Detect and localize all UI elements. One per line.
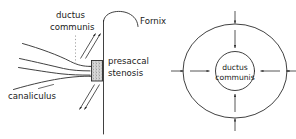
presaccal-stenosis-block: [92, 61, 103, 82]
canaliculus-leader: [39, 85, 54, 89]
label-presaccal-line1: presaccal: [108, 56, 149, 66]
diagram-svg: ductus communis Fornix presaccal stenosi…: [0, 0, 296, 139]
label-ductus-communis-line1: ductus: [56, 10, 85, 20]
figure-canvas: ductus communis Fornix presaccal stenosi…: [0, 0, 296, 139]
left-panel-group: ductus communis Fornix presaccal stenosi…: [8, 10, 166, 134]
fornix-arch: [104, 11, 139, 26]
label-ductus-communis-line2: communis: [50, 22, 95, 32]
label-lumen-ductus-line1: ductus: [222, 63, 248, 72]
right-panel-group: ductus communis: [171, 11, 296, 131]
lower-canaliculus-wall-bottom: [14, 76, 91, 89]
label-lumen-ductus-line2: communis: [215, 73, 254, 82]
label-fornix: Fornix: [140, 16, 166, 26]
label-canaliculus: canaliculus: [8, 91, 56, 101]
upper-canaliculus-wall-top: [23, 44, 91, 67]
lower-canaliculus-wall-top: [19, 68, 91, 76]
label-presaccal-line2: stenosis: [108, 68, 144, 78]
